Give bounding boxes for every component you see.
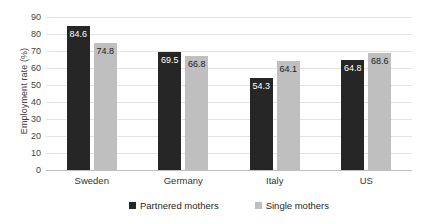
bar: 69.5 <box>158 52 181 170</box>
bar-pair: 84.674.8 <box>67 17 117 170</box>
legend-label: Single mothers <box>266 200 329 211</box>
bar: 84.6 <box>67 26 90 170</box>
x-axis-category-label: Germany <box>138 175 230 186</box>
bar-value-label: 66.8 <box>188 60 206 69</box>
bar-pair: 64.868.6 <box>341 17 391 170</box>
bar: 66.8 <box>185 56 208 170</box>
plot-area: 9080706050403020100 84.674.869.566.854.3… <box>46 17 412 170</box>
y-tick-label: 80 <box>31 29 41 38</box>
legend-item[interactable]: Partnered mothers <box>129 200 219 211</box>
bar-value-label: 74.8 <box>96 47 114 56</box>
bar: 64.1 <box>277 61 300 170</box>
x-axis-category-label: Italy <box>229 175 321 186</box>
legend-swatch-icon <box>129 202 136 209</box>
bar-value-label: 54.3 <box>252 82 270 91</box>
y-tick-label: 0 <box>36 166 41 175</box>
bar-group: 64.868.6 <box>321 17 413 170</box>
chart-legend: Partnered mothersSingle mothers <box>46 200 412 211</box>
bar-pair: 54.364.1 <box>250 17 300 170</box>
x-axis-category-label: Sweden <box>46 175 138 186</box>
y-tick-label: 70 <box>31 46 41 55</box>
y-tick-label: 30 <box>31 115 41 124</box>
y-tick-label: 10 <box>31 148 41 157</box>
gridline: 0 <box>46 170 412 171</box>
bar: 74.8 <box>94 43 117 170</box>
bar-group: 69.566.8 <box>138 17 230 170</box>
y-tick-label: 90 <box>31 13 41 22</box>
bar-groups: 84.674.869.566.854.364.164.868.6 <box>46 17 412 170</box>
y-axis-title: Employment rate (%) <box>19 11 29 171</box>
bar: 64.8 <box>341 60 364 170</box>
bar-group: 84.674.8 <box>46 17 138 170</box>
legend-item[interactable]: Single mothers <box>255 200 329 211</box>
legend-label: Partnered mothers <box>140 200 219 211</box>
bar-group: 54.364.1 <box>229 17 321 170</box>
x-axis-category-labels: SwedenGermanyItalyUS <box>46 175 412 186</box>
bar-chart: Employment rate (%) 9080706050403020100 … <box>0 0 430 224</box>
bar: 54.3 <box>250 78 273 170</box>
bar-value-label: 64.1 <box>279 65 297 74</box>
x-axis-category-label: US <box>321 175 413 186</box>
bar-value-label: 69.5 <box>161 56 179 65</box>
y-tick-label: 60 <box>31 64 41 73</box>
bar-value-label: 64.8 <box>344 64 362 73</box>
y-tick-label: 20 <box>31 132 41 141</box>
y-tick-label: 40 <box>31 98 41 107</box>
y-tick-label: 50 <box>31 80 41 89</box>
legend-swatch-icon <box>255 202 262 209</box>
bar-value-label: 68.6 <box>371 57 389 66</box>
bar-value-label: 84.6 <box>69 30 87 39</box>
bar-pair: 69.566.8 <box>158 17 208 170</box>
bar: 68.6 <box>368 53 391 170</box>
